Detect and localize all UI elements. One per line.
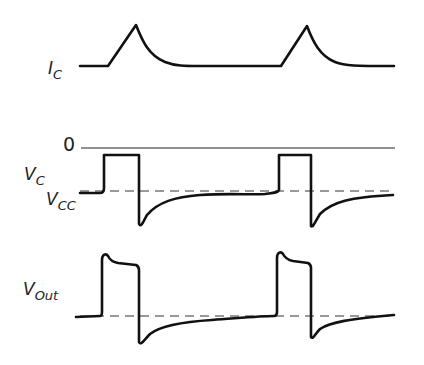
ic-label: IC: [48, 58, 63, 82]
ic-trace: IC: [48, 25, 394, 82]
vout-trace: VOut: [23, 252, 395, 343]
waveform-diagram: IC 0 VC VCC VOut: [0, 0, 424, 365]
zero-label: 0: [63, 133, 75, 155]
vc-label: VC: [24, 164, 46, 188]
vout-waveform: [76, 252, 394, 343]
vout-label: VOut: [23, 279, 59, 303]
vcc-label: VCC: [46, 189, 77, 213]
ic-waveform: [80, 25, 394, 66]
vc-trace: 0 VC VCC: [24, 133, 395, 226]
